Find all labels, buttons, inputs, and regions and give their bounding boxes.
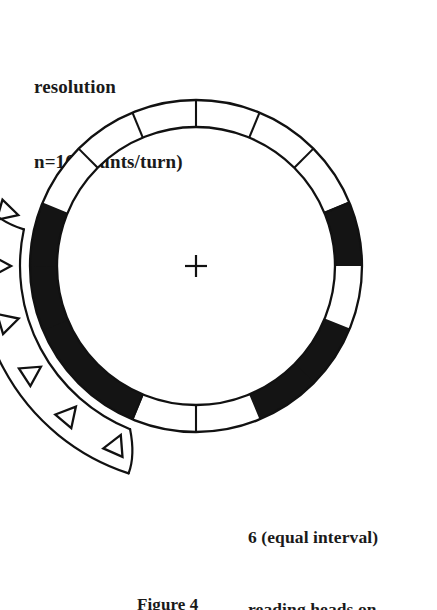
disc-sector-11-dark (30, 265, 68, 330)
reading-head-triangle-icon-3 (19, 358, 47, 386)
reading-head-5[interactable] (0, 256, 11, 277)
disc-sector-15-light (132, 100, 196, 138)
reading-head-3[interactable] (19, 358, 47, 386)
caption-line-1: 6 (equal interval) (248, 525, 378, 549)
reading-head-triangle-icon-2 (55, 400, 84, 428)
bracket-end-cap-1 (129, 429, 133, 473)
figure-number-label: Figure 4 (137, 595, 198, 610)
reading-head-4[interactable] (0, 308, 22, 334)
disc-sector-0-light (196, 100, 260, 138)
reading-head-triangle-icon-5 (0, 256, 11, 277)
reading-head-1[interactable] (103, 431, 130, 457)
disc-sector-4-light (324, 266, 362, 330)
figure-root: resolution n=16(counts/turn) 6 (equal in… (0, 0, 437, 610)
caption-line-2: reading heads on (248, 597, 378, 610)
reading-head-2[interactable] (55, 400, 84, 428)
disc-sector-8-light (132, 394, 196, 432)
disc-center-mark-icon (185, 255, 207, 277)
reading-head-caption: 6 (equal interval) reading heads on cons… (248, 477, 378, 610)
reading-head-triangle-icon-1 (103, 431, 130, 457)
reading-head-triangle-icon-4 (0, 308, 22, 334)
disc-sector-12-dark (30, 202, 68, 267)
disc-sector-7-light (196, 394, 260, 432)
